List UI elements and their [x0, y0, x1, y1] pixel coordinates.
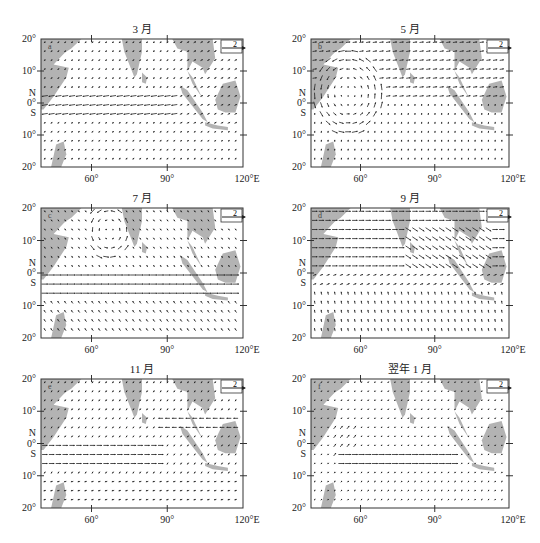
y-tick-label: 20°: [274, 503, 306, 513]
y-tick-label: 10°: [274, 471, 306, 481]
land-mass: [447, 85, 474, 122]
panel-title: 5 月: [310, 20, 510, 36]
land-mass: [180, 255, 208, 292]
reference-vector-box: [221, 40, 242, 53]
y-tick-label: 10°: [274, 130, 306, 140]
panel-title: 3 月: [42, 20, 242, 36]
x-tick-label: 120°E: [493, 514, 533, 525]
x-tick-label: 90°: [415, 173, 455, 184]
land-mass: [311, 379, 351, 405]
y-tick-label: 0°: [4, 439, 36, 449]
reference-vector-box: [221, 380, 242, 393]
y-tick-label: 20°: [4, 503, 36, 513]
y-tick-label: 20°: [274, 162, 306, 172]
reference-vector-box: [487, 40, 508, 53]
y-tick-label: 10°: [4, 130, 36, 140]
y-tick-label: 20°: [4, 203, 36, 213]
y-tick-label: S: [4, 108, 36, 118]
land-mass: [472, 463, 494, 471]
vector-map: 2a: [41, 39, 243, 167]
reference-vector-label: 2: [499, 209, 503, 218]
land-mass: [180, 85, 208, 122]
land-mass: [321, 312, 336, 338]
x-tick-label: 60°: [341, 514, 381, 525]
x-tick-label: 60°: [341, 173, 381, 184]
land-mass: [122, 379, 142, 418]
x-tick-label: 60°: [72, 173, 112, 184]
panel-title: 7 月: [42, 189, 242, 205]
panel-title: 11 月: [42, 360, 242, 376]
vector-map: 2c: [41, 208, 243, 338]
y-tick-label: S: [274, 108, 306, 118]
panel-title: 翌年 1 月: [310, 360, 510, 376]
vector-map: 2b: [311, 39, 509, 167]
x-tick-label: 120°E: [227, 514, 267, 525]
panel-letter: b: [318, 42, 322, 51]
panel-letter: e: [48, 382, 52, 391]
y-tick-label: N: [4, 428, 36, 438]
y-tick-label: S: [274, 278, 306, 288]
panel-title: 9 月: [310, 189, 510, 205]
x-tick-label: 60°: [341, 344, 381, 355]
vector-map: 2e: [41, 379, 243, 508]
y-tick-label: S: [274, 449, 306, 459]
land-mass: [390, 39, 410, 77]
land-mass: [205, 122, 228, 130]
y-tick-label: 10°: [4, 301, 36, 311]
y-tick-label: 20°: [274, 333, 306, 343]
x-tick-label: 120°E: [493, 344, 533, 355]
land-mass: [122, 208, 142, 247]
reference-vector-label: 2: [233, 209, 237, 218]
land-mass: [205, 293, 228, 301]
y-tick-label: 10°: [274, 66, 306, 76]
y-tick-label: 20°: [274, 203, 306, 213]
reference-vector-box: [487, 380, 508, 393]
vector-map: 2f: [311, 379, 509, 508]
y-tick-label: 10°: [4, 406, 36, 416]
reference-vector-label: 2: [233, 380, 237, 389]
land-mass: [390, 379, 410, 418]
x-tick-label: 90°: [147, 514, 187, 525]
reference-vector-label: 2: [233, 40, 237, 49]
land-mass: [51, 141, 66, 167]
y-tick-label: 10°: [4, 66, 36, 76]
reference-vector-box: [221, 209, 242, 222]
panel-letter: a: [48, 42, 52, 51]
land-mass: [482, 250, 507, 282]
y-tick-label: 10°: [274, 301, 306, 311]
land-mass: [311, 39, 351, 65]
y-tick-label: 0°: [274, 439, 306, 449]
land-mass: [447, 426, 474, 463]
land-mass: [180, 426, 208, 463]
y-tick-label: 20°: [274, 34, 306, 44]
x-tick-label: 90°: [415, 344, 455, 355]
x-tick-label: 90°: [147, 173, 187, 184]
land-mass: [215, 421, 240, 453]
y-tick-label: 20°: [274, 374, 306, 384]
y-tick-label: 20°: [4, 374, 36, 384]
y-tick-label: N: [274, 428, 306, 438]
land-mass: [390, 208, 410, 247]
x-tick-label: 90°: [415, 514, 455, 525]
land-mass: [482, 421, 507, 453]
panel-letter: c: [48, 211, 52, 220]
land-mass: [447, 255, 474, 292]
y-tick-label: 10°: [274, 406, 306, 416]
reference-vector-box: [487, 209, 508, 222]
x-tick-label: 60°: [72, 514, 112, 525]
vector-map: 2d: [311, 208, 509, 338]
land-mass: [311, 208, 351, 234]
y-tick-label: 20°: [4, 162, 36, 172]
land-mass: [51, 482, 66, 508]
y-tick-label: 10°: [4, 471, 36, 481]
land-mass: [321, 482, 336, 508]
land-mass: [205, 463, 228, 471]
panel-letter: d: [318, 211, 322, 220]
y-tick-label: 10°: [4, 236, 36, 246]
y-tick-label: 20°: [4, 34, 36, 44]
y-tick-label: S: [4, 449, 36, 459]
y-tick-label: 20°: [4, 333, 36, 343]
y-tick-label: S: [4, 278, 36, 288]
x-tick-label: 60°: [72, 344, 112, 355]
land-mass: [142, 413, 147, 424]
